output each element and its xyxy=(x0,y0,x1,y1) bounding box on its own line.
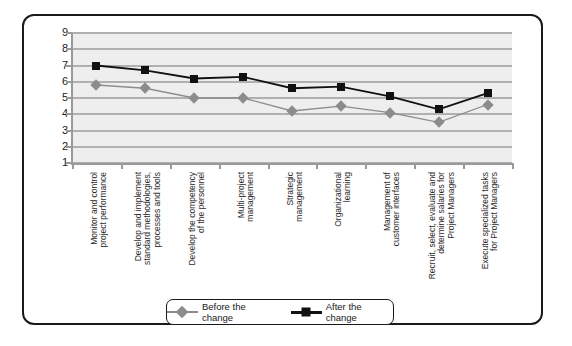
line-chart: 123456789 Monitor and control project pe… xyxy=(0,0,572,346)
x-category-label-2: Develop the competency of the personnel xyxy=(188,172,207,292)
legend-label-before: Before the change xyxy=(202,301,277,323)
x-category-label-5: Organizational learning xyxy=(334,172,353,292)
x-category-label-7: Recruit, select, evaluate and determine … xyxy=(428,172,456,292)
legend-swatch-after xyxy=(291,311,322,314)
square-marker-icon xyxy=(302,308,311,317)
chart-legend: Before the change After the change xyxy=(166,299,394,325)
x-axis-category-labels: Monitor and control project performanceD… xyxy=(0,0,572,346)
x-category-label-0: Monitor and control project performance xyxy=(90,172,109,292)
x-category-label-3: Multi-project management xyxy=(237,172,256,292)
legend-item-before[interactable]: Before the change xyxy=(167,301,277,323)
x-category-label-8: Execute specialized tasks for Project Ma… xyxy=(481,172,500,292)
x-category-label-6: Management of customer interfaces xyxy=(383,172,402,292)
x-category-label-4: Strategic management xyxy=(286,172,305,292)
legend-label-after: After the change xyxy=(326,301,393,323)
diamond-marker-icon xyxy=(176,306,189,319)
x-category-label-1: Develop and implement standard methodolo… xyxy=(134,172,162,292)
legend-swatch-before xyxy=(167,311,198,313)
legend-item-after[interactable]: After the change xyxy=(291,301,393,323)
